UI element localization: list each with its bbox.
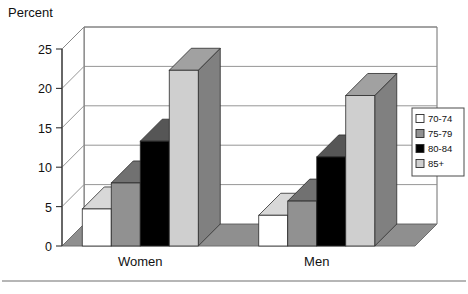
y-tick-label: 0: [45, 240, 52, 254]
y-tick-label: 15: [38, 122, 52, 136]
legend-entry-label[interactable]: 75-79: [428, 128, 452, 139]
bar-chart-3d: Percent 0510152025 WomenMen 70-7475-7980…: [0, 0, 468, 294]
bar-front-face: [169, 70, 198, 246]
legend-swatch[interactable]: [416, 145, 424, 153]
bar-3d: [169, 48, 220, 246]
bar-side-face: [198, 48, 220, 246]
x-category-label: Men: [304, 254, 329, 269]
bar-side-face: [375, 73, 397, 246]
bar-front-face: [259, 215, 288, 246]
legend-entry-label[interactable]: 70-74: [428, 113, 452, 124]
y-tick-label: 20: [38, 82, 52, 96]
bar-3d: [346, 73, 397, 246]
legend-swatch[interactable]: [416, 130, 424, 138]
legend-entry-label[interactable]: 80-84: [428, 143, 452, 154]
bar-front-face: [140, 141, 169, 246]
bar-front-face: [317, 157, 346, 246]
legend[interactable]: 70-7475-7980-8485+: [412, 108, 464, 176]
y-axis-title: Percent: [8, 5, 53, 20]
y-tick-label: 10: [38, 161, 52, 175]
plot-left-wall: [62, 27, 84, 246]
y-tick-label: 5: [45, 201, 52, 215]
legend-entry-label[interactable]: 85+: [428, 158, 445, 169]
legend-swatch[interactable]: [416, 115, 424, 123]
chart-figure: Percent 0510152025 WomenMen 70-7475-7980…: [0, 0, 468, 294]
x-category-label: Women: [118, 254, 163, 269]
bar-front-face: [346, 95, 375, 246]
legend-swatch[interactable]: [416, 160, 424, 168]
y-tick-label: 25: [38, 43, 52, 57]
bar-front-face: [111, 183, 140, 246]
bar-front-face: [82, 209, 111, 246]
bar-front-face: [288, 201, 317, 246]
